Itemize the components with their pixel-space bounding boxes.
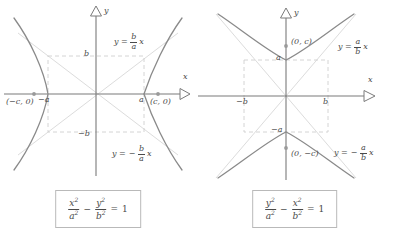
asymptote-pos-denominator: b bbox=[354, 48, 361, 57]
equation-operator: − bbox=[82, 204, 92, 214]
equation-term-1-denominator: a2 bbox=[68, 210, 79, 222]
equation-term-1-den-exp: 2 bbox=[75, 209, 79, 216]
tick-label-b: b bbox=[323, 98, 328, 106]
asymptote-neg-sign: − bbox=[128, 150, 136, 158]
hyperbola-figure-pair: x y a −a b −b (c, 0) (−c, 0) y = b a x bbox=[0, 0, 393, 234]
asymptote-label-negative: y = − b a x bbox=[112, 145, 152, 163]
focus-right-point bbox=[156, 92, 160, 96]
y-axis-arrowhead bbox=[91, 6, 102, 16]
asymptote-neg-sign: − bbox=[350, 149, 358, 157]
focus-top-point bbox=[284, 44, 288, 48]
equation-term-2-den-exp: 2 bbox=[298, 209, 302, 216]
tick-label-a: a bbox=[276, 54, 281, 62]
equation-vertical: y2 a2 − x2 b2 = 1 bbox=[265, 197, 325, 221]
equation-term-2-numerator: y2 bbox=[95, 197, 106, 210]
focus-label-left: (−c, 0) bbox=[6, 98, 34, 106]
asymptote-neg-equals: = bbox=[119, 150, 127, 158]
equation-term-1-den-exp: 2 bbox=[271, 209, 275, 216]
equation-term-2: x2 b2 bbox=[291, 197, 303, 221]
focus-bottom-point bbox=[284, 146, 288, 150]
asymptote-pos-equals: = bbox=[121, 38, 129, 46]
tick-label-b: b bbox=[84, 50, 89, 58]
plot-vertical-hyperbola: x y b −b a −a (0, c) (0, −c) y = a b x bbox=[196, 0, 393, 186]
axes bbox=[4, 16, 180, 176]
tick-label-neg-a: −a bbox=[271, 126, 282, 134]
asymptote-neg-variable: x bbox=[147, 150, 152, 158]
focus-label-top: (0, c) bbox=[291, 38, 312, 46]
asymptote-pos-lhs: y bbox=[338, 43, 343, 51]
asymptote-neg-lhs: y bbox=[334, 149, 339, 157]
asymptote-neg-denominator: a bbox=[138, 155, 145, 164]
equation-operator: − bbox=[279, 204, 289, 214]
y-axis-label: y bbox=[104, 7, 109, 15]
equation-term-1-num-exp: 2 bbox=[74, 196, 78, 203]
equation-term-2-denominator: b2 bbox=[95, 210, 107, 222]
equation-horizontal: x2 a2 − y2 b2 = 1 bbox=[68, 197, 128, 221]
equation-box-vertical: y2 a2 − x2 b2 = 1 bbox=[252, 190, 338, 228]
equation-rhs: 1 bbox=[122, 204, 128, 214]
equation-term-1-num-exp: 2 bbox=[271, 196, 275, 203]
asymptote-neg-lhs: y bbox=[112, 150, 117, 158]
asymptote-neg-denominator: b bbox=[360, 154, 367, 163]
x-axis-label: x bbox=[183, 73, 188, 81]
asymptote-neg-fraction: a b bbox=[360, 144, 367, 162]
asymptote-neg-variable: x bbox=[369, 149, 374, 157]
panel-horizontal-hyperbola: x y a −a b −b (c, 0) (−c, 0) y = b a x bbox=[0, 0, 196, 234]
asymptote-pos-fraction: a b bbox=[354, 38, 361, 56]
equation-term-1: x2 a2 bbox=[68, 197, 79, 221]
asymptote-pos-variable: x bbox=[363, 43, 368, 51]
asymptote-label-negative: y = − a b x bbox=[334, 144, 374, 162]
equation-term-2: y2 b2 bbox=[95, 197, 107, 221]
focus-label-bottom: (0, −c) bbox=[291, 150, 319, 158]
plot-horizontal-hyperbola: x y a −a b −b (c, 0) (−c, 0) y = b a x bbox=[0, 0, 196, 186]
equation-term-1-numerator: y2 bbox=[265, 197, 276, 210]
focus-label-right: (c, 0) bbox=[150, 98, 171, 106]
tick-label-neg-a: −a bbox=[38, 96, 49, 104]
equation-term-1-denominator: a2 bbox=[265, 210, 276, 222]
asymptote-label-positive: y = b a x bbox=[114, 33, 144, 51]
equation-term-2-num-exp: 2 bbox=[298, 196, 302, 203]
focus-left-point bbox=[32, 92, 36, 96]
asymptote-pos-equals: = bbox=[345, 43, 353, 51]
asymptote-neg-equals: = bbox=[341, 149, 349, 157]
equation-equals: = bbox=[306, 204, 316, 214]
asymptote-pos-variable: x bbox=[139, 38, 144, 46]
equation-box-horizontal: x2 a2 − y2 b2 = 1 bbox=[55, 190, 141, 228]
tick-label-a: a bbox=[139, 96, 144, 104]
panel-vertical-hyperbola: x y b −b a −a (0, c) (0, −c) y = a b x bbox=[196, 0, 393, 234]
y-axis-label: y bbox=[294, 9, 299, 17]
y-axis-arrowhead bbox=[281, 8, 292, 18]
equation-term-2-denominator: b2 bbox=[291, 210, 303, 222]
asymptote-pos-lhs: y bbox=[114, 38, 119, 46]
asymptote-pos-denominator: a bbox=[130, 43, 137, 52]
x-axis-arrowhead bbox=[180, 89, 190, 100]
asymptote-neg-fraction: b a bbox=[138, 145, 145, 163]
equation-term-2-num-exp: 2 bbox=[101, 196, 105, 203]
x-axis-arrowhead bbox=[364, 91, 375, 102]
x-axis-label: x bbox=[368, 76, 373, 84]
equation-term-1: y2 a2 bbox=[265, 197, 276, 221]
equation-equals: = bbox=[110, 204, 120, 214]
equation-rhs: 1 bbox=[319, 204, 325, 214]
tick-label-neg-b: −b bbox=[78, 130, 90, 138]
equation-term-2-numerator: x2 bbox=[292, 197, 303, 210]
asymptote-pos-fraction: b a bbox=[130, 33, 137, 51]
tick-label-neg-b: −b bbox=[236, 98, 248, 106]
asymptote-label-positive: y = a b x bbox=[338, 38, 368, 56]
equation-term-1-numerator: x2 bbox=[68, 197, 79, 210]
equation-term-2-den-exp: 2 bbox=[102, 209, 106, 216]
